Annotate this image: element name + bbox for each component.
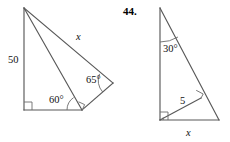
left-triangle-label-65-degrees: 65° [86,74,101,85]
left-triangle-lower-right-side [82,83,113,110]
problem-number-44: 44. [123,5,137,17]
right-triangle-hypotenuse [160,8,219,120]
left-triangle-label-50: 50 [8,54,19,65]
figures-svg: 50 x 60° 65° 44. 30° 5 [0,0,230,142]
left-triangle-side-x [24,8,113,83]
right-triangle-label-5: 5 [180,95,185,106]
left-triangle-label-x: x [75,31,81,42]
right-triangle-label-30-degrees: 30° [163,43,178,54]
figure-left-group: 50 x 60° 65° [8,8,113,110]
left-triangle-right-angle-mark [24,102,32,110]
figure-right-group: 44. 30° 5 x [123,5,219,138]
left-triangle-label-60-degrees: 60° [49,94,64,105]
left-triangle-60-degree-arc [67,98,74,110]
right-triangle-foot-right-angle-mark [196,90,203,99]
geometry-figure-sheet: 50 x 60° 65° 44. 30° 5 [0,0,230,142]
right-triangle-label-x: x [185,127,191,138]
